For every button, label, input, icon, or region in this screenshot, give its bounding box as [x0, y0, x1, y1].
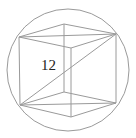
cube-edge: [20, 92, 64, 105]
cube-in-sphere-diagram: 12: [0, 0, 136, 138]
cube-edge: [19, 37, 20, 105]
bottom-face-diagonal: [20, 103, 116, 105]
cube-edge: [71, 34, 116, 48]
diagram-svg: [0, 0, 136, 138]
cube-edge: [19, 37, 71, 48]
top-face-diagonal: [19, 34, 116, 37]
cube-edge: [64, 24, 116, 34]
cube-edge: [64, 92, 116, 103]
space-diagonal: [20, 34, 116, 105]
space-diagonal-length-label: 12: [41, 58, 56, 73]
cube-diagonals: [19, 34, 116, 105]
